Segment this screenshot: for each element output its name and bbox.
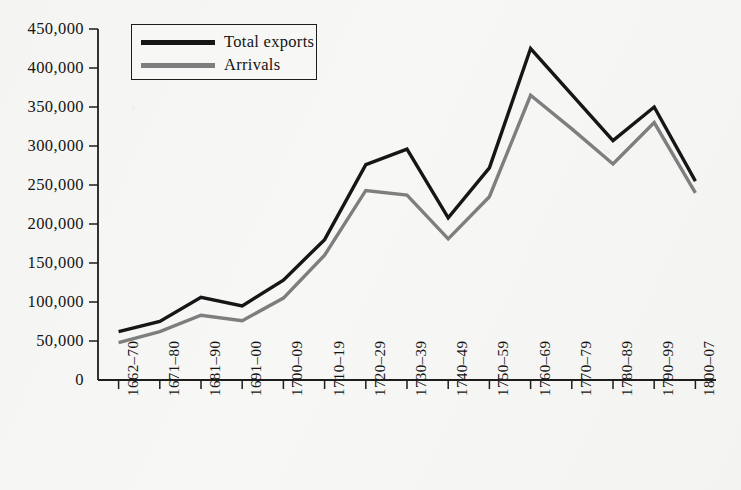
y-axis-tick-label: 300,000: [28, 136, 84, 156]
axes: [89, 29, 716, 389]
y-axis-tick-label: 450,000: [28, 19, 84, 39]
y-axis-ticks: [89, 29, 98, 341]
x-axis-tick-label: 1681–90: [207, 341, 224, 396]
series-line-arrivals: [119, 95, 696, 342]
y-axis-tick-label: 350,000: [28, 97, 84, 117]
legend-swatch-total-exports: [141, 40, 215, 45]
x-axis-tick-label: 1790–99: [660, 341, 677, 396]
y-axis-tick-label: 400,000: [28, 58, 84, 78]
x-axis-tick-label: 1720–29: [372, 341, 389, 396]
legend-item-total-exports: Total exports: [141, 34, 314, 51]
x-axis-tick-label: 1760–69: [537, 341, 554, 396]
x-axis-tick-label: 1662–70: [125, 341, 142, 396]
legend-swatch-arrivals: [141, 63, 215, 68]
legend-item-arrivals: Arrivals: [141, 57, 280, 74]
y-axis-tick-label: 250,000: [28, 175, 84, 195]
y-axis-tick-label: 150,000: [28, 253, 84, 273]
data-series-group: [119, 49, 696, 343]
legend-label-total-exports: Total exports: [224, 34, 314, 51]
x-axis-tick-label: 1691–00: [248, 341, 265, 396]
series-line-total-exports: [119, 49, 696, 332]
x-axis-tick-label: 1710–19: [331, 341, 348, 396]
x-axis-tick-label: 1750–59: [495, 341, 512, 396]
x-axis-tick-label: 1770–79: [578, 341, 595, 396]
x-axis-tick-label: 1780–89: [619, 341, 636, 396]
line-chart-plot: [0, 0, 741, 490]
legend-label-arrivals: Arrivals: [224, 57, 280, 74]
x-axis-tick-label: 1700–09: [289, 341, 306, 396]
y-axis-tick-label: 200,000: [28, 214, 84, 234]
chart-page: 050,000100,000150,000200,000250,000300,0…: [0, 0, 741, 490]
x-axis-tick-label: 1671–80: [166, 341, 183, 396]
chart-legend: Total exports Arrivals: [131, 24, 317, 80]
x-axis-tick-label: 1730–39: [413, 341, 430, 396]
x-axis-ticks: [119, 380, 696, 389]
y-axis-tick-label: 50,000: [36, 331, 84, 351]
y-axis-tick-label: 100,000: [28, 292, 84, 312]
y-axis-tick-label: 0: [75, 370, 84, 390]
x-axis-tick-label: 1740–49: [454, 341, 471, 396]
x-axis-tick-label: 1800–07: [701, 341, 718, 396]
